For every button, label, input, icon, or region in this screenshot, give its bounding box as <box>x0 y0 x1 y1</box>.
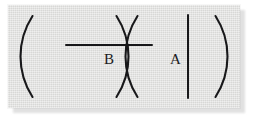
variable-label-a: A <box>170 52 181 67</box>
figure-canvas: B A <box>0 0 253 118</box>
formula-card: B A <box>8 5 240 108</box>
vertical-bar-icon <box>187 14 189 99</box>
close-paren-icon-2 <box>207 14 233 99</box>
open-paren-icon <box>15 14 41 99</box>
open-paren-icon-2 <box>120 14 146 99</box>
